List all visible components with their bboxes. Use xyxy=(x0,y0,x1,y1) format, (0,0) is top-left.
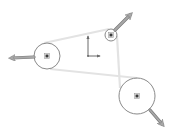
belt-segment[interactable] xyxy=(44,29,109,43)
left-arrow-icon[interactable] xyxy=(12,57,34,58)
origin-icon xyxy=(87,36,100,57)
center-point-fill xyxy=(110,34,113,37)
belt-segment[interactable] xyxy=(117,36,120,88)
bottom-arrow-icon[interactable] xyxy=(150,110,162,124)
origin-point xyxy=(87,55,89,57)
center-point-fill xyxy=(46,55,49,58)
top-arrow-icon[interactable] xyxy=(115,15,130,30)
sketch-svg xyxy=(0,0,175,133)
drag-arrows xyxy=(12,15,162,124)
belt-segment[interactable] xyxy=(50,69,137,78)
left-pulley[interactable] xyxy=(34,43,60,69)
center-point-fill xyxy=(136,95,139,98)
belt-lines xyxy=(44,29,137,88)
sketch-canvas[interactable] xyxy=(0,0,175,133)
